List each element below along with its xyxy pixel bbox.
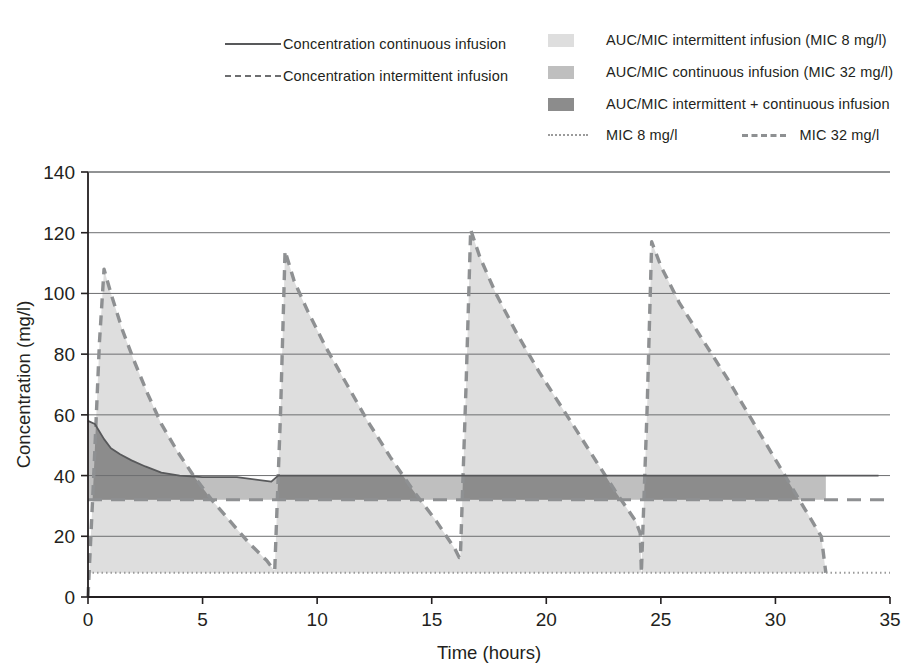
swatch-light-icon [548,31,606,49]
x-tick-label: 0 [83,609,94,630]
y-tick-label: 100 [43,283,75,304]
legend-label-mic8: MIC 8 mg/l [606,127,678,143]
x-tick-label: 10 [307,609,328,630]
legend-column-areas: AUC/MIC intermittent infusion (MIC 8 mg/… [548,24,893,150]
legend-label: AUC/MIC intermittent infusion (MIC 8 mg/… [606,32,887,48]
legend-label: Concentration intermittent infusion [283,68,508,84]
legend-label: AUC/MIC intermittent + continuous infusi… [606,96,890,112]
legend-column-lines: Concentration continuous infusion Concen… [225,28,508,92]
swatch-dark-icon [548,95,606,113]
legend-item-mic-row: MIC 8 mg/l MIC 32 mg/l [548,120,893,150]
chart-area: 02040608010012014005101520253035Time (ho… [0,150,913,672]
legend-label: Concentration continuous infusion [283,36,506,52]
dotted-line-icon [548,126,606,144]
chart-legend: Concentration continuous infusion Concen… [0,0,913,152]
y-tick-label: 140 [43,162,75,183]
solid-line-icon [225,35,283,53]
legend-item-concentration-intermittent: Concentration intermittent infusion [225,60,508,92]
swatch-medium-icon [548,63,606,81]
legend-label: AUC/MIC continuous infusion (MIC 32 mg/l… [606,64,893,80]
legend-item-auc-continuous: AUC/MIC continuous infusion (MIC 32 mg/l… [548,56,893,88]
x-tick-label: 20 [536,609,557,630]
x-axis-title: Time (hours) [437,642,541,663]
y-tick-label: 20 [54,526,75,547]
dashed-line-mic32-icon [742,126,800,144]
x-tick-label: 35 [879,609,900,630]
legend-item-auc-overlap: AUC/MIC intermittent + continuous infusi… [548,88,893,120]
x-tick-label: 30 [765,609,786,630]
x-tick-label: 5 [197,609,208,630]
dashed-line-icon [225,67,283,85]
figure-root: Concentration continuous infusion Concen… [0,0,913,672]
y-tick-label: 0 [64,587,75,608]
y-axis-title: Concentration (mg/l) [13,301,34,469]
y-tick-label: 80 [54,344,75,365]
concentration-time-chart: 02040608010012014005101520253035Time (ho… [0,150,913,672]
legend-label-mic32: MIC 32 mg/l [800,127,880,143]
y-tick-label: 120 [43,223,75,244]
x-tick-label: 15 [421,609,442,630]
area-intermittent [89,230,825,573]
legend-item-auc-intermittent: AUC/MIC intermittent infusion (MIC 8 mg/… [548,24,893,56]
y-tick-label: 60 [54,405,75,426]
legend-item-concentration-continuous: Concentration continuous infusion [225,28,508,60]
x-tick-label: 25 [650,609,671,630]
y-tick-label: 40 [54,466,75,487]
